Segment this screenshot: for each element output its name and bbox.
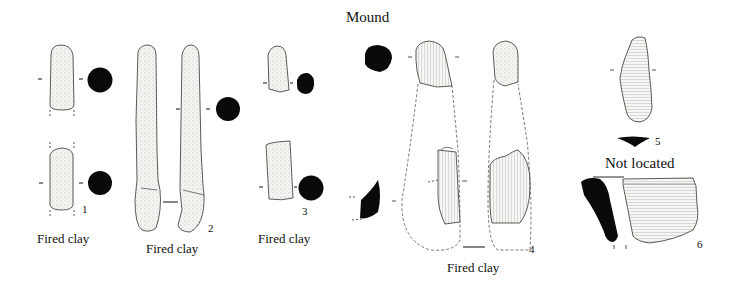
- object-1-section-top: [88, 68, 113, 93]
- object-1-section-bottom: [88, 171, 112, 195]
- section-title-mound: Mound: [346, 9, 389, 26]
- object-4-section-top: [365, 45, 392, 72]
- section-title-not-located: Not located: [605, 155, 675, 172]
- object-1-view-bottom: [39, 142, 112, 218]
- object-4-section-bottom: [360, 180, 380, 218]
- object-4-drawing: [349, 41, 531, 250]
- object-3-section-top: [297, 73, 314, 94]
- object-number-4: 4: [529, 243, 535, 255]
- object-number-2: 2: [208, 222, 214, 234]
- object-2-section: [216, 97, 240, 121]
- material-label-1: Fired clay: [37, 231, 89, 247]
- object-2-drawing: [135, 45, 240, 232]
- object-number-5: 5: [655, 135, 661, 147]
- object-5-section: [617, 137, 650, 148]
- object-number-1: 1: [82, 203, 88, 215]
- object-3-section-bottom: [299, 176, 324, 201]
- plate-drawings: [0, 0, 738, 281]
- object-6-drawing: [581, 177, 698, 249]
- object-6-section: [581, 178, 618, 242]
- object-3-view-top: [263, 46, 314, 94]
- object-3-view-bottom: [259, 141, 324, 201]
- material-label-3: Fired clay: [258, 231, 310, 247]
- object-number-3: 3: [302, 205, 308, 217]
- object-1-view-top: [38, 45, 113, 117]
- object-number-6: 6: [697, 238, 703, 250]
- material-label-2: Fired clay: [146, 241, 198, 257]
- object-5-drawing: [610, 37, 656, 147]
- material-label-4: Fired clay: [447, 260, 499, 276]
